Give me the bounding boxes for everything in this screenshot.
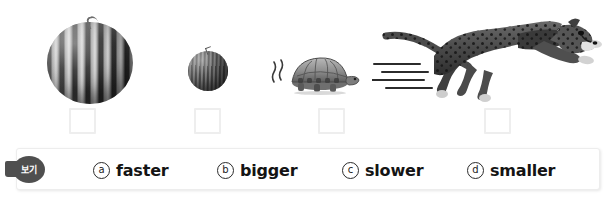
speed-lines — [372, 64, 432, 88]
slow-motion-squiggles — [273, 60, 283, 82]
choice-marker-b: b — [217, 162, 234, 179]
choice-label-slower: slower — [365, 161, 423, 180]
choice-marker-a: a — [93, 162, 110, 179]
tortoise-icon — [270, 50, 362, 96]
choice-label-smaller: smaller — [490, 161, 555, 180]
answer-box-cheetah[interactable] — [484, 108, 511, 134]
answer-box-tortoise[interactable] — [318, 108, 345, 134]
choice-marker-d: d — [467, 162, 484, 179]
choice-bar: 보기 a faster b bigger c slower d smaller — [16, 148, 600, 190]
choice-option-faster[interactable]: a faster — [93, 158, 168, 182]
choice-option-smaller[interactable]: d smaller — [467, 158, 555, 182]
watermelon-icon — [47, 16, 133, 104]
choice-option-bigger[interactable]: b bigger — [217, 158, 297, 182]
watermelon-body — [47, 22, 133, 104]
choice-label-bigger: bigger — [240, 161, 297, 180]
picture-item-tortoise — [260, 0, 370, 140]
choice-option-slower[interactable]: c slower — [342, 158, 423, 182]
bogi-badge: 보기 — [13, 156, 45, 183]
small-melon-body — [188, 51, 228, 91]
picture-row — [0, 0, 616, 140]
cheetah-icon — [372, 14, 606, 106]
choice-label-faster: faster — [116, 161, 168, 180]
answer-box-watermelon[interactable] — [69, 108, 96, 134]
answer-box-small-melon[interactable] — [194, 108, 221, 134]
small-melon-icon — [188, 47, 228, 91]
choice-marker-c: c — [342, 162, 359, 179]
